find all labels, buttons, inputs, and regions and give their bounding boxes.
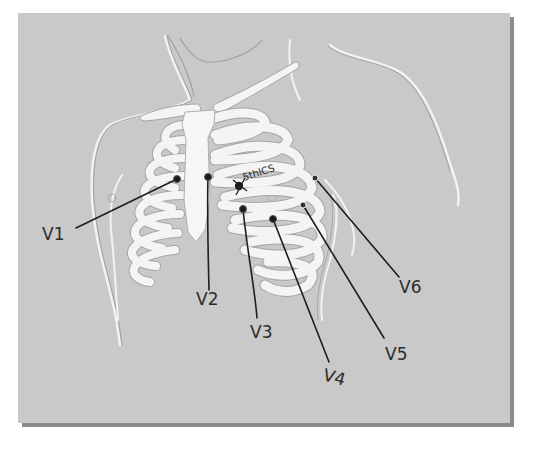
label-v6: V6 — [399, 277, 421, 297]
electrode-v4 — [270, 216, 277, 223]
electrode-v6 — [312, 175, 318, 181]
label-v5: V5 — [385, 344, 407, 364]
electrode-v3 — [240, 206, 247, 213]
electrode-v1 — [174, 176, 181, 183]
label-v1: V1 — [42, 224, 64, 244]
label-v3: V3 — [250, 322, 272, 342]
label-v2: V2 — [196, 289, 218, 309]
electrode-v5 — [300, 202, 306, 208]
ecg-lead-diagram: 5thICS V1 V2 V3 V4 V5 V6 — [0, 0, 538, 455]
electrode-v2 — [205, 174, 212, 181]
